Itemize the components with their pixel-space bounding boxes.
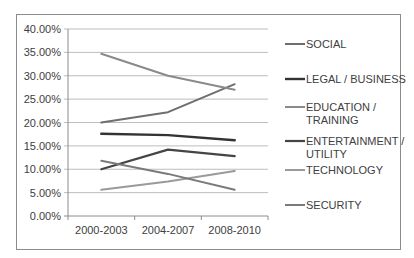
series-line-security xyxy=(101,161,234,190)
legend-label: UTILITY xyxy=(306,148,348,160)
y-tick-label: 10.00% xyxy=(24,163,62,175)
legend-label: ENTERTAINMENT / xyxy=(306,135,405,147)
series-line-entertainment-utility xyxy=(101,150,234,170)
legend-label: SOCIAL xyxy=(306,38,346,50)
legend-label: SECURITY xyxy=(306,199,362,211)
legend-item: TECHNOLOGY xyxy=(285,164,384,176)
y-tick-label: 30.00% xyxy=(24,70,62,82)
legend-item: LEGAL / BUSINESS xyxy=(285,73,406,85)
x-tick-label: 2004-2007 xyxy=(142,224,195,236)
series-line-legal-business xyxy=(101,134,234,141)
legend-label: LEGAL / BUSINESS xyxy=(306,73,406,85)
gridlines xyxy=(64,29,268,216)
legend-label: EDUCATION / xyxy=(306,101,377,113)
line-chart: 0.00%5.00%10.00%15.00%20.00%25.00%30.00%… xyxy=(0,0,414,258)
x-tick-label: 2008-2010 xyxy=(208,224,261,236)
y-tick-label: 40.00% xyxy=(24,23,62,35)
y-tick-label: 35.00% xyxy=(24,46,62,58)
legend: SOCIALLEGAL / BUSINESSEDUCATION /TRAININ… xyxy=(285,38,406,211)
y-axis: 0.00%5.00%10.00%15.00%20.00%25.00%30.00%… xyxy=(24,23,68,222)
x-tick-label: 2000-2003 xyxy=(75,224,128,236)
y-tick-label: 0.00% xyxy=(30,210,61,222)
y-tick-label: 15.00% xyxy=(24,140,62,152)
y-tick-label: 25.00% xyxy=(24,93,62,105)
y-tick-label: 5.00% xyxy=(30,187,61,199)
y-tick-label: 20.00% xyxy=(24,117,62,129)
legend-item: SECURITY xyxy=(285,199,362,211)
legend-item: EDUCATION /TRAINING xyxy=(285,101,377,126)
legend-item: ENTERTAINMENT /UTILITY xyxy=(285,135,405,160)
legend-item: SOCIAL xyxy=(285,38,346,50)
legend-label: TECHNOLOGY xyxy=(306,164,384,176)
series-line-social xyxy=(101,84,234,122)
x-axis: 2000-20032004-20072008-2010 xyxy=(68,216,268,236)
legend-label: TRAINING xyxy=(306,114,359,126)
series-line-education-training xyxy=(101,54,234,90)
